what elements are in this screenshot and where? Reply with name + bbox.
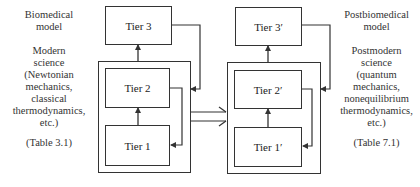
right-science-line3: (quantum — [333, 69, 420, 81]
left-science-line5: classical — [2, 93, 96, 105]
right-science-line6: thermodynamics, — [333, 105, 420, 117]
tier3-prime-label: Tier 3′ — [254, 21, 283, 33]
tier2-label: Tier 2 — [124, 82, 150, 94]
right-science-line5: nonequilibrium — [333, 93, 420, 105]
right-table-ref: (Table 7.1) — [333, 137, 420, 149]
right-science-line1: Postmodern — [333, 45, 420, 57]
left-science-line4: mechanics, — [2, 81, 96, 93]
left-science-line1: Modern — [2, 45, 96, 57]
left-description: Biomedical model Modern science (Newtoni… — [2, 9, 96, 149]
tier1-box: Tier 1 — [105, 125, 170, 166]
right-description: Postbiomedical model Postmodern science … — [333, 9, 420, 149]
left-science-line7: etc.) — [2, 117, 96, 129]
right-science-line7: etc.) — [333, 117, 420, 129]
tier3-box: Tier 3 — [105, 6, 172, 45]
left-model-title-line2: model — [2, 21, 96, 33]
left-science-line6: thermodynamics, — [2, 105, 96, 117]
tier2-prime-label: Tier 2′ — [254, 84, 283, 96]
diagram-canvas: Biomedical model Modern science (Newtoni… — [0, 0, 420, 187]
tier1-prime-box: Tier 1′ — [234, 127, 302, 167]
right-science-line2: science — [333, 57, 420, 69]
transition-arrow-icon — [190, 107, 226, 126]
left-science-line2: science — [2, 57, 96, 69]
right-science-line4: mechanics, — [333, 81, 420, 93]
right-model-title-line1: Postbiomedical — [333, 9, 420, 21]
left-table-ref: (Table 3.1) — [2, 137, 96, 149]
tier2-box: Tier 2 — [105, 68, 170, 108]
right-model-title-line2: model — [333, 21, 420, 33]
tier3-label: Tier 3 — [125, 20, 151, 32]
tier2-prime-box: Tier 2′ — [234, 70, 302, 109]
tier3-prime-box: Tier 3′ — [235, 7, 302, 46]
tier1-label: Tier 1 — [124, 140, 150, 152]
left-model-title-line1: Biomedical — [2, 9, 96, 21]
tier1-prime-label: Tier 1′ — [254, 141, 283, 153]
left-science-line3: (Newtonian — [2, 69, 96, 81]
